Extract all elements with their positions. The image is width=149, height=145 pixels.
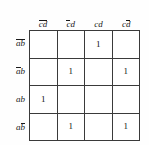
literal-b-bar: b <box>21 123 26 132</box>
kmap-cell-r3-c1[interactable]: 1 <box>58 114 86 142</box>
kmap-cell-r1-c2[interactable] <box>85 59 113 87</box>
column-header-2: cd <box>85 11 113 30</box>
kmap-cell-r2-c3[interactable] <box>113 86 141 114</box>
column-header-row: cdcdcdcd <box>29 11 140 30</box>
kmap-row-2: 1 <box>30 86 140 114</box>
row-label-1: ab <box>0 58 29 86</box>
kmap-row-1: 11 <box>30 59 140 87</box>
literal-d-bar: d <box>43 20 48 29</box>
literal-a-bar: a <box>16 67 21 76</box>
kmap-cell-r1-c1[interactable]: 1 <box>58 59 86 87</box>
literal-d-bar: d <box>126 20 131 29</box>
kmap-cell-r0-c1[interactable] <box>58 31 86 59</box>
kmap-cell-r1-c0[interactable] <box>30 59 58 87</box>
literal-d: d <box>98 20 103 29</box>
row-label-column: abababab <box>0 30 29 141</box>
kmap-cell-r3-c0[interactable] <box>30 114 58 142</box>
kmap-cell-r2-c0[interactable]: 1 <box>30 86 58 114</box>
literal-d: d <box>70 20 75 29</box>
kmap-cell-r0-c0[interactable] <box>30 31 58 59</box>
kmap-row-3: 11 <box>30 114 140 142</box>
karnaugh-map-grid: 111111 <box>29 30 140 141</box>
karnaugh-map-diagram: cdcdcdcd abababab 111111 <box>0 0 149 145</box>
row-label-0: ab <box>0 30 29 58</box>
literal-b: b <box>21 95 26 104</box>
column-header-0: cd <box>29 11 57 30</box>
kmap-cell-r2-c1[interactable] <box>58 86 86 114</box>
kmap-row-0: 1 <box>30 31 140 59</box>
column-header-3: cd <box>112 11 140 30</box>
row-label-3: ab <box>0 113 29 141</box>
kmap-cell-r3-c3[interactable]: 1 <box>113 114 141 142</box>
kmap-cell-r0-c2[interactable]: 1 <box>85 31 113 59</box>
column-header-1: cd <box>57 11 85 30</box>
literal-c-bar: c <box>66 20 70 29</box>
row-label-2: ab <box>0 86 29 114</box>
kmap-cell-r3-c2[interactable] <box>85 114 113 142</box>
kmap-cell-r1-c3[interactable]: 1 <box>113 59 141 87</box>
literal-b: b <box>21 67 26 76</box>
kmap-cell-r0-c3[interactable] <box>113 31 141 59</box>
literal-b-bar: b <box>21 39 26 48</box>
kmap-cell-r2-c2[interactable] <box>85 86 113 114</box>
